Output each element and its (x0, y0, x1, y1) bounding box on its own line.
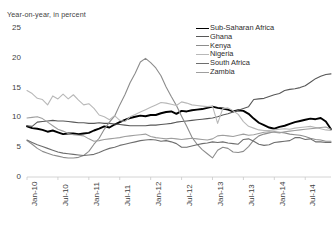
legend-item-sub-saharan-africa[interactable]: Sub-Saharan Africa (196, 24, 274, 32)
y-axis-tick-label: 5 (3, 142, 21, 151)
y-axis-tick-label: 0 (3, 172, 21, 181)
x-axis-tick-label: Jul-13 (247, 184, 256, 206)
x-axis-tick-label: Jul-12 (185, 184, 194, 206)
x-axis-tick-label: Jul-11 (123, 185, 132, 206)
series-layer (27, 58, 331, 158)
x-axis-tick-label: Jul-10 (61, 184, 70, 206)
legend-item-zambia[interactable]: Zambia (196, 68, 274, 76)
legend-item-kenya[interactable]: Kenya (196, 42, 274, 50)
x-axis-tick-label: Jan-12 (154, 182, 163, 206)
legend-line-swatch-icon (196, 72, 209, 73)
legend-item-label: Zambia (210, 68, 235, 76)
legend-line-swatch-icon (196, 45, 209, 46)
legend-line-swatch-icon (196, 54, 209, 55)
y-axis-tick-label: 25 (3, 23, 21, 32)
legend-item-south-africa[interactable]: South Africa (196, 59, 274, 67)
series-line-kenya (27, 58, 331, 158)
x-axis-tick-label: Jan-11 (92, 182, 101, 206)
legend-item-label: Ghana (210, 33, 232, 41)
legend-line-swatch-icon (196, 28, 209, 29)
axis-layer (27, 177, 331, 180)
x-axis-tick-label: Jan-14 (278, 182, 287, 206)
chart-container: Year-on-year, in percent 0510152025 Jan-… (0, 0, 334, 225)
x-axis-tick-label: Jul-14 (308, 184, 317, 206)
chart-legend: Sub-Saharan AfricaGhanaKenyaNigeriaSouth… (196, 24, 274, 77)
y-axis-tick-label: 10 (3, 112, 21, 121)
x-axis-tick-label: Jan-10 (30, 182, 39, 206)
legend-item-label: Sub-Saharan Africa (210, 24, 274, 32)
y-axis-tick-label: 15 (3, 83, 21, 92)
y-axis-tick-label: 20 (3, 53, 21, 62)
x-axis-tick-label: Jan-13 (216, 182, 225, 206)
series-line-south-africa (27, 138, 331, 156)
legend-line-swatch-icon (196, 36, 209, 37)
series-line-ghana (27, 74, 331, 126)
legend-line-swatch-icon (196, 63, 209, 64)
legend-item-ghana[interactable]: Ghana (196, 33, 274, 41)
